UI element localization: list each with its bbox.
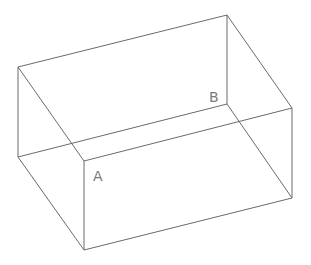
edge-top-left xyxy=(18,67,84,161)
edge-bottom-right xyxy=(227,104,292,198)
label-a: A xyxy=(93,168,103,184)
edge-top-right xyxy=(227,15,292,108)
edges xyxy=(18,15,292,250)
label-b: B xyxy=(209,89,219,105)
box-wireframe-diagram: A B xyxy=(0,0,311,265)
edge-bottom-left xyxy=(18,157,84,250)
edge-top-back xyxy=(18,15,227,67)
edge-bottom-front xyxy=(84,198,292,250)
